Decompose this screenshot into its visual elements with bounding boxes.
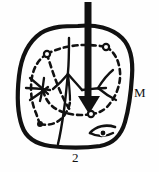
node-upper-right xyxy=(103,44,109,50)
node-lower-center xyxy=(88,111,94,117)
figure-number-label: 2 xyxy=(72,151,79,164)
node-upper-left xyxy=(44,51,50,57)
figure-container: M 2 xyxy=(0,0,159,172)
region-label-m: M xyxy=(134,86,146,99)
node-lower-left xyxy=(37,121,43,127)
direction-arrow-shaft xyxy=(85,2,92,103)
node-bottom-right xyxy=(100,130,106,136)
